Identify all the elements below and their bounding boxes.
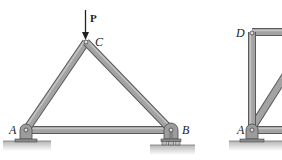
member-diagonal xyxy=(252,68,282,128)
label-c: C xyxy=(95,35,104,49)
label-a: A xyxy=(8,123,17,137)
label-a-right: A xyxy=(236,123,245,137)
truss-diagram: P C A B xyxy=(0,0,282,160)
load-arrow-p xyxy=(82,10,89,40)
label-p: P xyxy=(90,12,97,24)
joint-c-pin xyxy=(84,40,88,44)
right-truss: D A xyxy=(229,26,282,151)
ground-a xyxy=(3,141,51,151)
member-ab xyxy=(26,129,171,131)
ground-right xyxy=(229,141,282,151)
joint-d-pin xyxy=(250,31,254,35)
label-b: B xyxy=(182,123,190,137)
member-ad xyxy=(251,32,253,130)
member-d-top xyxy=(252,31,282,33)
left-truss: P C A B xyxy=(3,10,195,155)
ground-b xyxy=(150,145,195,155)
member-ac xyxy=(25,41,86,131)
label-d: D xyxy=(235,26,245,40)
member-cb xyxy=(86,41,172,131)
